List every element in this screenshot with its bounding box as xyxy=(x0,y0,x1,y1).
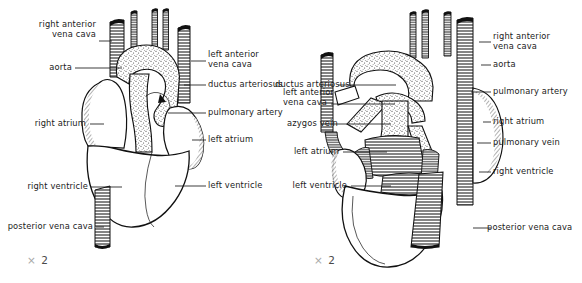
dorsal-view-panel: ductus arteriosus left anterior vena cav… xyxy=(291,0,582,283)
ventral-view-panel: right anterior vena cava aorta right atr… xyxy=(0,0,291,283)
multiply-icon: × xyxy=(314,254,324,266)
label-right-anterior-vena-cava: right anterior vena cava xyxy=(8,20,96,39)
magnification-value: 2 xyxy=(328,254,336,266)
label-pulmonary-vein: pulmonary vein xyxy=(493,138,575,148)
label-right-ventricle: right ventricle xyxy=(4,182,88,192)
label-left-atrium: left atrium xyxy=(285,147,339,157)
right-anterior-vena-cava-vessel xyxy=(457,17,473,205)
label-left-anterior-vena-cava: left anterior vena cava xyxy=(283,88,327,107)
label-aorta: aorta xyxy=(8,63,72,73)
label-posterior-vena-cava: posterior vena cava xyxy=(487,223,581,233)
label-left-anterior-vena-cava: left anterior vena cava xyxy=(208,50,290,69)
label-aorta: aorta xyxy=(493,60,553,70)
label-right-atrium: right atrium xyxy=(8,119,86,129)
carotid-trunk-vessels-dorsal xyxy=(410,9,451,58)
label-right-ventricle: right ventricle xyxy=(493,167,573,177)
posterior-vena-cava-vessel xyxy=(95,186,110,249)
label-left-ventricle: left ventricle xyxy=(208,181,286,191)
magnification-value: 2 xyxy=(41,254,49,266)
right-atrium xyxy=(82,80,127,149)
anatomical-figure: right anterior vena cava aorta right atr… xyxy=(0,0,582,283)
magnification-dorsal: × 2 xyxy=(314,254,336,266)
magnification-ventral: × 2 xyxy=(27,254,49,266)
label-left-ventricle: left ventricle xyxy=(277,181,347,191)
left-anterior-vena-cava-vessel xyxy=(178,25,190,103)
label-azygos-vein: azygos vein xyxy=(287,119,329,129)
label-right-anterior-vena-cava: right anterior vena cava xyxy=(493,32,579,51)
label-pulmonary-artery: pulmonary artery xyxy=(493,87,579,97)
label-right-atrium: right atrium xyxy=(493,117,567,127)
label-pulmonary-artery: pulmonary artery xyxy=(208,108,292,118)
multiply-icon: × xyxy=(27,254,37,266)
label-left-atrium: left atrium xyxy=(208,135,280,145)
label-posterior-vena-cava: posterior vena cava xyxy=(0,222,93,232)
